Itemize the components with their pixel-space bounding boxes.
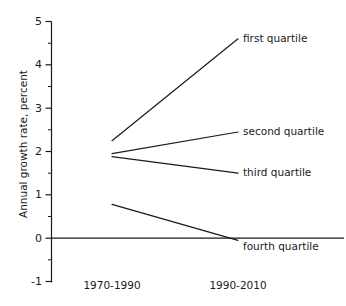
series-label-second-quartile: second quartile [243,125,324,137]
chart-figure: 5 4 3 2 1 0 -1 Annual growth rate, perce… [0,0,346,306]
y-tick-label-5: 5 [26,16,42,27]
series-label-third-quartile: third quartile [243,166,311,178]
series-line-first-quartile [112,39,238,141]
x-tick-label-1970-1990: 1970-1990 [72,279,152,291]
y-tick-label-4: 4 [26,59,42,70]
y-tick-label-minus-1: -1 [22,276,42,287]
series-line-fourth-quartile [112,204,238,240]
chart-plot-area [0,0,346,306]
y-tick-label-0: 0 [26,233,42,244]
series-label-first-quartile: first quartile [243,32,307,44]
series-label-fourth-quartile: fourth quartile [243,240,319,252]
series-line-third-quartile [112,157,238,173]
series-line-second-quartile [112,132,238,154]
y-axis-title: Annual growth rate, percent [17,70,29,218]
x-tick-label-1990-2010: 1990-2010 [198,279,278,291]
